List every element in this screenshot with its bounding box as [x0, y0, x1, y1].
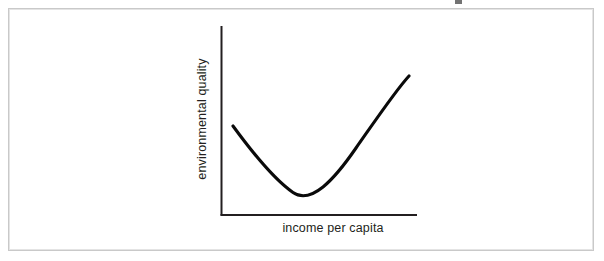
page-canvas: environmental quality income per capita — [0, 0, 604, 261]
kuznets-curve — [233, 76, 409, 196]
y-axis-label: environmental quality — [195, 58, 209, 179]
x-axis-label: income per capita — [282, 221, 383, 235]
